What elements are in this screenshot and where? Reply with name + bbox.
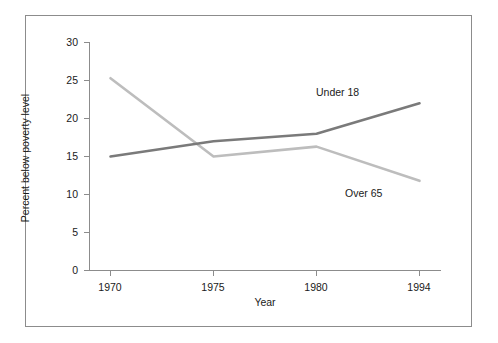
- y-tick-label-5: 5: [46, 226, 78, 238]
- y-tick-label-0: 0: [46, 264, 78, 276]
- series-label-under-18: Under 18: [316, 86, 359, 98]
- series-line-over-65: [111, 78, 420, 181]
- x-tick-label-1994: 1994: [407, 281, 430, 293]
- x-tick-label-1980: 1980: [304, 281, 327, 293]
- x-tick-label-1975: 1975: [201, 281, 224, 293]
- y-tick-label-30: 30: [46, 36, 78, 48]
- y-axis-ticks: [84, 43, 90, 271]
- x-tick-label-1970: 1970: [98, 281, 121, 293]
- x-axis-ticks: [111, 271, 420, 277]
- series-line-under-18: [111, 103, 420, 156]
- y-tick-label-15: 15: [46, 150, 78, 162]
- y-axis-title: Percent below poverty level: [19, 73, 31, 243]
- y-tick-label-25: 25: [46, 74, 78, 86]
- y-tick-label-20: 20: [46, 112, 78, 124]
- poverty-line-chart: 30 25 20 15 10 5 0 1970 1975 1980 1994 P…: [0, 0, 498, 343]
- y-tick-label-10: 10: [46, 188, 78, 200]
- series-label-over-65: Over 65: [345, 187, 382, 199]
- x-axis-title: Year: [90, 296, 440, 308]
